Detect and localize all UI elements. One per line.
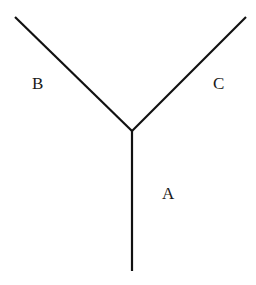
branch-c-line (132, 17, 246, 131)
y-junction-diagram: B C A (0, 0, 256, 285)
label-b: B (32, 74, 43, 93)
label-a: A (162, 184, 175, 203)
label-c: C (213, 74, 224, 93)
